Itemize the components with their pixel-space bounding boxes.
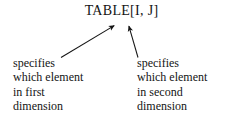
caption-first-line-1: specifies	[13, 56, 83, 70]
caption-second-dimension: specifies which element in second dimens…	[137, 56, 207, 114]
arrow-to-first-index	[61, 26, 114, 58]
caption-first-line-2: which element	[13, 70, 83, 84]
caption-first-line-4: dimension	[13, 99, 83, 113]
caption-second-line-4: dimension	[137, 99, 207, 113]
caption-second-line-1: specifies	[137, 56, 207, 70]
arrow-to-second-index	[129, 26, 138, 57]
caption-first-line-3: in first	[13, 85, 83, 99]
caption-second-line-2: which element	[137, 70, 207, 84]
table-index-annotation-figure: TABLE[I, J] specifies which element in f…	[0, 0, 243, 125]
caption-first-dimension: specifies which element in first dimensi…	[13, 56, 83, 114]
caption-second-line-3: in second	[137, 85, 207, 99]
